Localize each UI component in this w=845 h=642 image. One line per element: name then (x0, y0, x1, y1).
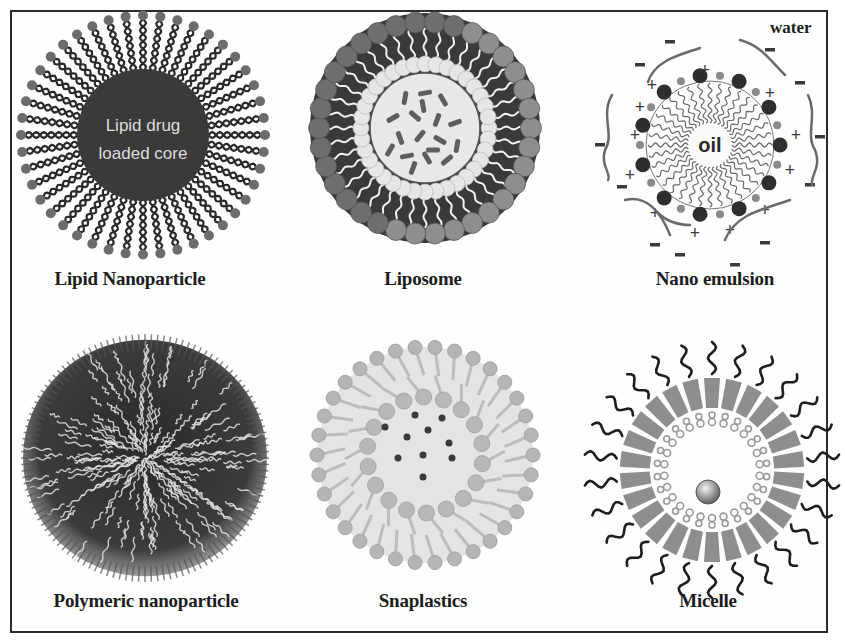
micelle-head (673, 426, 679, 432)
micelle-tail (607, 397, 633, 416)
micelle-tail (802, 504, 832, 517)
micelle-tail (585, 451, 617, 460)
micelle-head (760, 487, 766, 493)
micelle-head (735, 418, 741, 424)
micelle-tail (651, 555, 667, 583)
micelle-body (773, 470, 805, 489)
micelle-head (722, 414, 728, 420)
micelle-tail (807, 480, 839, 489)
micelle-head (661, 461, 668, 468)
micelle-head (731, 424, 738, 431)
micelle-head (753, 484, 760, 491)
micelle-tail (791, 397, 817, 416)
micelle-head (709, 515, 716, 522)
micelle-head (753, 449, 760, 456)
micelle-head (673, 508, 679, 514)
micelle-head (683, 516, 689, 522)
micelle-head (683, 418, 689, 424)
micelle-head (654, 460, 660, 466)
micelle-head (709, 412, 715, 418)
micelle-head (658, 487, 664, 493)
micelle-head (756, 472, 763, 479)
micelle-head (664, 436, 670, 442)
micelle-tail (607, 524, 633, 543)
micelle-illustration (0, 0, 845, 642)
micelle-head (696, 414, 702, 420)
micelle-body (620, 451, 652, 470)
micelle-head (731, 509, 738, 516)
micelle-body (704, 532, 720, 562)
encapsulated-drug (696, 480, 720, 504)
micelle-head (745, 426, 751, 432)
micelle-head (720, 513, 727, 520)
micelle-head (664, 449, 671, 456)
micelle-tail (776, 374, 798, 398)
micelle-tail (681, 346, 691, 377)
micelle-head (661, 472, 668, 479)
micelle-tail (775, 542, 797, 566)
micelle-body (620, 470, 652, 489)
micelle-label: Micelle (679, 590, 737, 612)
micelle-head (697, 420, 704, 427)
micelle-head (664, 498, 670, 504)
micelle-head (664, 484, 671, 491)
micelle-head (760, 447, 766, 453)
micelle-body (773, 451, 805, 470)
micelle-tail (708, 342, 716, 374)
micelle-tail (592, 423, 622, 436)
micelle-tail (791, 525, 817, 544)
micelle-tail (807, 453, 839, 462)
micelle-head (686, 509, 693, 516)
micelle-head (696, 520, 702, 526)
micelle-tail (802, 425, 832, 438)
micelle-head (709, 419, 716, 426)
micelle-head (697, 513, 704, 520)
micelle-head (764, 474, 770, 480)
micelle-tail (653, 357, 669, 385)
micelle-tail (592, 502, 622, 515)
micelle-head (764, 460, 770, 466)
micelle-tail (585, 478, 617, 487)
micelle-head (745, 508, 751, 514)
micelle-tail (757, 357, 773, 385)
micelle-head (654, 474, 660, 480)
micelle-head (756, 461, 763, 468)
micelle-head (658, 447, 664, 453)
micelle-tail (627, 542, 649, 566)
micelle-head (686, 424, 693, 431)
micelle-head (754, 498, 760, 504)
micelle-head (735, 516, 741, 522)
micelle-head (709, 522, 715, 528)
micelle-tail (735, 346, 745, 377)
micelle-head (720, 420, 727, 427)
panel-micelle: Micelle (0, 0, 845, 642)
micelle-tail (627, 374, 649, 398)
micelle-body (704, 378, 720, 408)
micelle-head (722, 520, 728, 526)
micelle-tail (755, 555, 771, 583)
micelle-head (754, 436, 760, 442)
